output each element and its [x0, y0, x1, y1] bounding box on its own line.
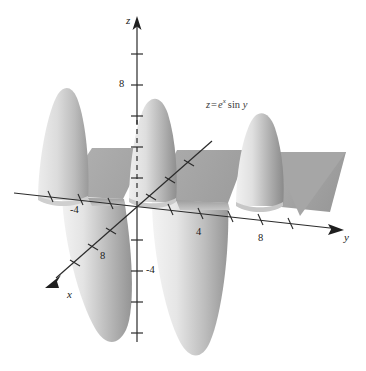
ridge-first [38, 88, 89, 200]
trough-second [152, 200, 228, 356]
tick-label-y-8: 8 [258, 232, 263, 243]
axis-label-x: x [67, 288, 72, 300]
tick-label-y-4: 4 [196, 226, 201, 237]
ridge-second [129, 99, 177, 202]
equation-function: sin [226, 99, 240, 110]
surface-plot-canvas [0, 0, 366, 371]
axis-label-y: y [344, 231, 349, 243]
axis-y-arrowhead [328, 224, 344, 235]
axis-y-tick-8 [258, 214, 263, 225]
tick-label-z-neg4: -4 [146, 264, 155, 275]
axis-label-z: z [126, 14, 130, 26]
equation-argument: y [243, 99, 248, 110]
surface-troughs [62, 196, 228, 356]
equation-label: z=exsin y [206, 97, 247, 110]
tick-label-z-8: 8 [119, 78, 124, 89]
tick-label-x-8: 8 [100, 250, 105, 261]
ridge-third [236, 113, 284, 206]
tick-label-y-neg4: -4 [70, 204, 79, 215]
figure-container: z=exsin y z y x 8 -4 -4 4 8 8 [0, 0, 366, 371]
trough-first [62, 196, 132, 342]
axis-x-arrowhead [45, 275, 61, 288]
equation-equals: = [210, 99, 218, 110]
